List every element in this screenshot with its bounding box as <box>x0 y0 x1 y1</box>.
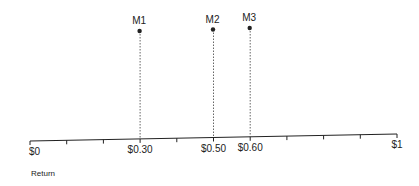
tick-label: $0 <box>29 146 41 157</box>
point-marker <box>211 27 215 31</box>
axis-label-return: Return <box>31 169 55 178</box>
point-marker <box>248 26 252 30</box>
tick-label: $1 <box>391 139 403 150</box>
point-label: M1 <box>132 15 146 26</box>
tick-label: $0.30 <box>128 144 153 155</box>
point-marker <box>137 29 141 33</box>
tick-label: $0.60 <box>238 142 263 153</box>
point-label: M3 <box>242 12 256 23</box>
point-label: M2 <box>206 14 220 25</box>
return-number-line: $0$0.30$0.50$0.60$1M1M2M3 Return <box>0 0 419 186</box>
tick-label: $0.50 <box>201 143 226 154</box>
